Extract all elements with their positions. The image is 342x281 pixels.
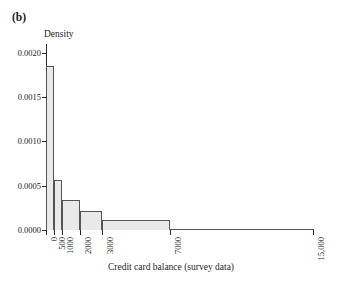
y-tick-mark <box>42 186 47 187</box>
y-tick-mark <box>42 141 47 142</box>
x-tick-mark <box>54 230 55 235</box>
x-tick-label: 3000 <box>106 237 115 254</box>
histogram-figure: (b) Density 0.00000.00050.00100.00150.00… <box>0 0 342 281</box>
y-tick-label: 0.0020 <box>18 49 41 58</box>
x-tick-mark <box>170 230 171 235</box>
x-tick-mark <box>102 230 103 235</box>
x-tick-mark <box>313 230 314 235</box>
x-tick-mark <box>62 230 63 235</box>
x-tick-mark <box>80 230 81 235</box>
x-axis-title: Credit card balance (survey data) <box>0 262 342 272</box>
histogram-bar <box>80 211 102 230</box>
x-tick-mark <box>46 230 47 235</box>
histogram-bar <box>54 180 62 230</box>
y-tick-mark <box>42 53 47 54</box>
y-tick-label: 0.0010 <box>18 137 41 146</box>
x-tick-label: 7000 <box>174 237 183 254</box>
y-tick-label: 0.0015 <box>18 93 41 102</box>
histogram-bar <box>102 220 170 230</box>
x-tick-label: 2000 <box>84 237 93 254</box>
x-tick-label: 1000 <box>66 237 75 254</box>
panel-label: (b) <box>12 11 26 23</box>
y-tick-mark <box>42 97 47 98</box>
y-axis-title: Density <box>44 29 74 39</box>
plot-area: 0.00000.00050.00100.00150.0020 050010002… <box>46 44 314 230</box>
histogram-bar <box>170 229 313 230</box>
histogram-bar <box>62 200 80 230</box>
y-tick-label: 0.0005 <box>18 181 41 190</box>
histogram-bar <box>46 66 54 230</box>
y-tick-label: 0.0000 <box>18 226 41 235</box>
x-tick-label: 15,000 <box>317 237 326 260</box>
